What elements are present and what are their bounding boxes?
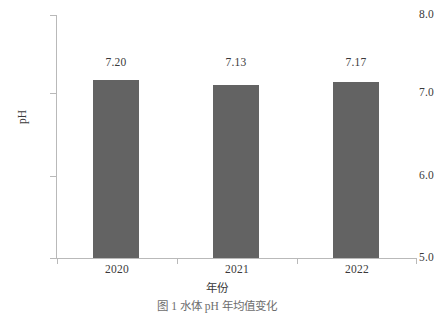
x-tick-label-2021: 2021 xyxy=(177,263,297,275)
x-axis-title: 年份 xyxy=(0,279,434,295)
x-axis-line xyxy=(56,258,417,259)
y-tick-mark xyxy=(50,258,57,259)
bar-2022[interactable] xyxy=(333,82,379,258)
bar-2021[interactable] xyxy=(213,85,259,258)
y-tick-label-7: 7.0 xyxy=(390,86,434,98)
y-tick-label-6: 6.0 xyxy=(390,169,434,181)
y-axis-line xyxy=(56,15,57,259)
y-axis-title: pH xyxy=(16,110,28,124)
y-tick-mark xyxy=(50,15,57,16)
bar-2020[interactable] xyxy=(93,80,139,258)
x-tick-label-2020: 2020 xyxy=(57,263,177,275)
bar-value-label-2021: 7.13 xyxy=(196,56,276,68)
y-tick-mark xyxy=(50,93,57,94)
bar-value-label-2020: 7.20 xyxy=(76,56,156,68)
y-tick-label-8: 8.0 xyxy=(390,8,434,20)
y-tick-label-5: 5.0 xyxy=(390,251,434,263)
bar-value-label-2022: 7.17 xyxy=(316,56,396,68)
figure-caption: 图 1 水体 pH 年均值变化 xyxy=(0,297,434,313)
x-tick-label-2022: 2022 xyxy=(297,263,417,275)
y-tick-mark xyxy=(50,176,57,177)
